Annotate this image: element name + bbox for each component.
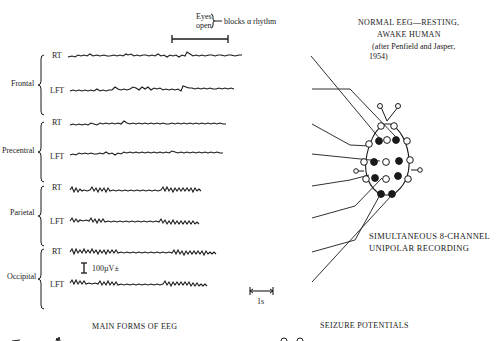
region-frontal: Frontal (11, 79, 34, 88)
main-forms-caption: MAIN FORMS OF EEG (92, 322, 177, 331)
trace-occipital-lft (70, 280, 207, 286)
trace-precentral-rt (70, 121, 226, 125)
frontal-brace (38, 55, 44, 115)
eyes-open-label: Eyes open (196, 12, 212, 30)
region-parietal: Parietal (10, 208, 34, 217)
electrodes (354, 104, 423, 198)
figure-title-line2: AWAKE HUMAN (377, 30, 441, 39)
channel-occipital-rt: RT (52, 247, 62, 256)
precentral-brace (38, 122, 44, 182)
channel-frontal-lft: LFT (50, 86, 64, 95)
trace-parietal-rt (70, 187, 201, 192)
blocks-alpha-label: blocks α rhythm (224, 17, 276, 26)
channel-precentral-rt: RT (52, 118, 62, 127)
region-occipital: Occipital (7, 272, 36, 281)
region-precentral: Precentral (2, 146, 34, 155)
trace-parietal-lft (70, 218, 199, 224)
channel-parietal-rt: RT (52, 183, 62, 192)
recording-line2: UNIPOLAR RECORDING (369, 243, 469, 253)
trace-frontal-rt (68, 52, 242, 57)
figure-title-line1: NORMAL EEG—RESTING, (358, 18, 497, 27)
parietal-brace (38, 186, 44, 246)
eyes-label-line2: open (196, 21, 212, 30)
trace-occipital-rt (70, 249, 216, 255)
trace-precentral-lft (70, 151, 223, 155)
channel-occipital-lft: LFT (50, 280, 64, 289)
channel-precentral-lft: LFT (50, 152, 64, 161)
eyes-label-line1: Eyes (196, 12, 212, 21)
citation-line1: (after Penfield and Jasper, (372, 42, 455, 51)
seizure-potentials-caption: SEIZURE POTENTIALS (320, 321, 409, 330)
channel-frontal-rt: RT (52, 51, 62, 60)
amplitude-scale-label: 100µV± (92, 264, 119, 273)
citation-line2: 1954) (369, 52, 388, 61)
channel-parietal-lft: LFT (50, 217, 64, 226)
eeg-diagram-graphics (0, 0, 497, 341)
trace-frontal-lft (70, 86, 234, 91)
time-scale-label: 1s (257, 297, 264, 306)
occipital-brace (38, 249, 44, 309)
recording-line1: SIMULTANEOUS 8-CHANNEL (369, 231, 490, 241)
